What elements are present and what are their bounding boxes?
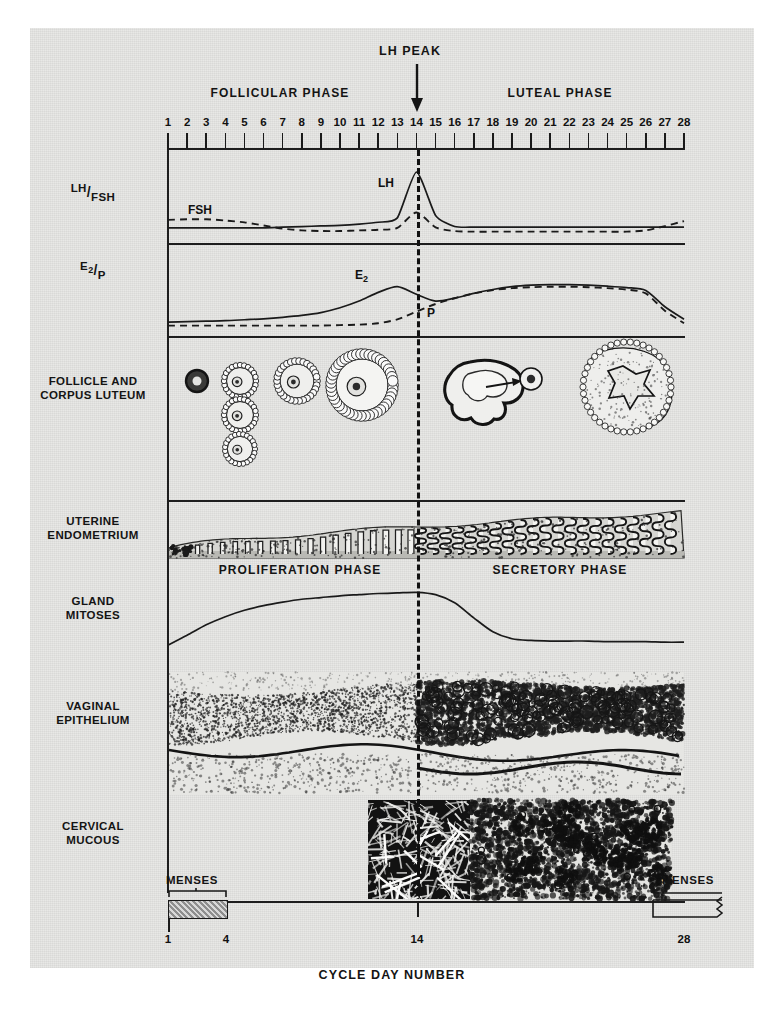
row-label-gland-mitoses: GLAND MITOSES	[18, 595, 168, 622]
axis-tick-13	[397, 133, 399, 148]
row-label-e2-numerator: E2	[80, 260, 93, 276]
row-label-lh-fsh-numerator: LH	[71, 182, 87, 196]
axis-tick-14	[416, 133, 418, 148]
axis-day-28: 28	[673, 116, 695, 128]
proliferation-phase-label: PROLIFERATION PHASE	[200, 563, 400, 577]
panel-divider-3	[168, 500, 685, 502]
row-label-e2-p: E2/P	[18, 262, 168, 281]
axis-tick-11	[358, 133, 360, 148]
panel-divider-1	[168, 243, 685, 245]
row-label-vaginal-line2: EPITHELIUM	[56, 714, 130, 726]
row-label-mitoses-line2: MITOSES	[66, 609, 120, 621]
curve-label-lh: LH	[378, 176, 394, 190]
axis-tick-28	[683, 133, 685, 148]
secretory-phase-label: SECRETORY PHASE	[470, 563, 650, 577]
axis-tick-12	[377, 133, 379, 148]
axis-tick-21	[549, 133, 551, 148]
row-label-follicle-line1: FOLLICLE AND	[49, 375, 138, 387]
axis-top-rule	[168, 148, 685, 150]
axis-tick-27	[664, 133, 666, 148]
menses-left-start-tick	[168, 919, 170, 932]
row-label-cervical-line1: CERVICAL	[62, 820, 124, 832]
axis-tick-16	[454, 133, 456, 148]
axis-tick-20	[530, 133, 532, 148]
axis-tick-1	[167, 133, 169, 148]
row-label-cervical-mucous: CERVICAL MUCOUS	[18, 820, 168, 847]
curve-label-fsh: FSH	[188, 203, 212, 217]
axis-tick-24	[607, 133, 609, 148]
axis-tick-8	[301, 133, 303, 148]
menses-left-label: MENSES	[152, 874, 232, 886]
axis-tick-7	[282, 133, 284, 148]
row-label-lh-fsh: LH/FSH	[18, 184, 168, 201]
row-label-vaginal-epithelium: VAGINAL EPITHELIUM	[18, 700, 168, 727]
ovulation-day-14-dashed-line	[417, 150, 420, 895]
row-label-follicle-line2: CORPUS LUTEUM	[40, 389, 146, 401]
e2-subscript: 2	[88, 265, 93, 275]
axis-tick-17	[473, 133, 475, 148]
axis-tick-5	[244, 133, 246, 148]
axis-tick-2	[186, 133, 188, 148]
menses-left-bar	[168, 900, 228, 919]
row-label-cervical-line2: MUCOUS	[66, 834, 120, 846]
row-label-lh-fsh-denominator: FSH	[91, 191, 115, 205]
luteal-phase-label: LUTEAL PHASE	[470, 86, 650, 100]
menses-mid-tick	[417, 903, 419, 917]
axis-tick-3	[205, 133, 207, 148]
axis-tick-4	[225, 133, 227, 148]
menses-right-label: MENSES	[648, 874, 728, 886]
axis-tick-19	[511, 133, 513, 148]
axis-tick-23	[588, 133, 590, 148]
axis-tick-10	[339, 133, 341, 148]
row-label-vaginal-line1: VAGINAL	[66, 700, 120, 712]
axis-tick-9	[320, 133, 322, 148]
row-label-p-denominator: P	[98, 269, 106, 283]
row-label-uterine-endometrium: UTERINE ENDOMETRIUM	[18, 515, 168, 542]
curve-label-e2: E2	[355, 268, 368, 284]
axis-tick-18	[492, 133, 494, 148]
menses-left-end-day: 4	[215, 933, 237, 945]
follicular-phase-label: FOLLICULAR PHASE	[190, 86, 370, 100]
panel-divider-2	[168, 336, 685, 338]
lh-peak-annotation: LH PEAK	[350, 44, 470, 59]
axis-title: CYCLE DAY NUMBER	[292, 968, 492, 983]
row-label-mitoses-line1: GLAND	[72, 595, 115, 607]
row-label-follicle-corpus-luteum: FOLLICLE AND CORPUS LUTEUM	[18, 375, 168, 402]
axis-tick-22	[569, 133, 571, 148]
curve-label-p: P	[427, 306, 435, 320]
axis-tick-15	[435, 133, 437, 148]
menses-left-start-day: 1	[157, 933, 179, 945]
figure-page: LH PEAK FOLLICULAR PHASE LUTEAL PHASE 12…	[0, 0, 784, 1025]
axis-tick-25	[626, 133, 628, 148]
axis-tick-6	[263, 133, 265, 148]
row-label-endometrium-line2: ENDOMETRIUM	[47, 529, 138, 541]
row-label-endometrium-line1: UTERINE	[66, 515, 119, 527]
menses-mid-day: 14	[406, 933, 428, 945]
e2-label-subscript: 2	[363, 274, 368, 284]
menses-right-end-day: 28	[673, 933, 695, 945]
axis-tick-26	[645, 133, 647, 148]
chart-bottom-rule	[168, 901, 685, 903]
